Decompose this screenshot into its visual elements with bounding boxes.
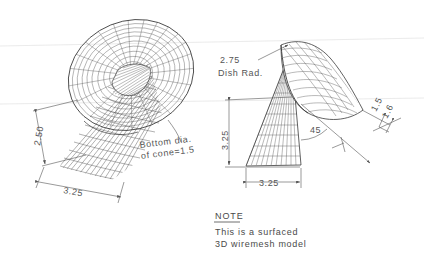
dim-right-base-value: 3.25 [259,178,279,188]
drawing-sheet: Bottom dia. of cone=1.5 2.50 3.25 [0,0,424,259]
dim-angle-45-value: 45 [310,125,321,135]
dish-radius-value: 2.75 [220,55,240,65]
dish-radius-label: Dish Rad. [218,68,263,78]
note-heading: NOTE [215,211,244,221]
dim-right-height-value: 3.25 [220,130,230,150]
note-line-2: 3D wiremesh model [215,239,306,249]
technical-drawing-canvas: Bottom dia. of cone=1.5 2.50 3.25 [0,0,424,259]
note-line-1: This is a surfaced [215,227,298,237]
sheet-background [0,0,424,259]
